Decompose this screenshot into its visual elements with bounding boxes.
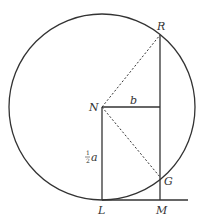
label-M: M [155,204,168,217]
label-L: L [97,204,105,217]
label-a: a [91,151,98,164]
label-N: N [88,101,99,114]
dashed-NG [102,107,160,177]
label-b: b [130,94,137,107]
half-numerator: 1 [86,149,90,156]
geometry-diagram: R N G L M b 1 2 a [0,0,201,222]
label-R: R [156,20,165,33]
half-denominator: 2 [86,157,90,164]
diagram-canvas: R N G L M b 1 2 a [0,0,201,222]
label-G: G [164,175,173,188]
